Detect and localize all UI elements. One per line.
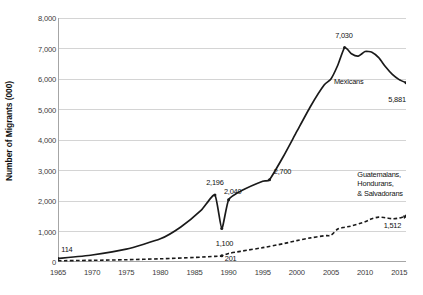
data-label: 114: [61, 244, 72, 253]
y-tick-label: 2,000: [16, 197, 56, 206]
y-tick-label: 0: [16, 258, 56, 267]
data-label: 2,700: [274, 167, 292, 176]
y-tick-label: 8,000: [16, 14, 56, 23]
data-point-marker: [227, 198, 230, 201]
data-label: 201: [225, 253, 237, 262]
y-tick-label: 3,000: [16, 166, 56, 175]
y-axis-tick-labels: 8,0007,0006,0005,0004,0003,0002,0001,000…: [12, 0, 56, 295]
x-axis-tick-labels: 1965197019751980198519901995200020052010…: [0, 268, 423, 284]
y-tick-label: 1,000: [16, 227, 56, 236]
data-point-marker: [268, 178, 271, 181]
data-label: 5,881: [388, 94, 406, 103]
data-point-marker: [58, 257, 60, 260]
data-label: 2,196: [206, 178, 224, 187]
series-annotation-label: Guatemalans,Hondurans,& Salvadorans: [357, 170, 402, 199]
x-tick-label: 2015: [376, 268, 422, 277]
series-annotation-label: Mexicans: [334, 77, 364, 87]
gridlines: [58, 18, 406, 232]
y-tick-label: 4,000: [16, 136, 56, 145]
data-point-marker: [343, 46, 346, 49]
y-tick-label: 6,000: [16, 75, 56, 84]
plot-svg: [58, 18, 406, 262]
data-label: 1,100: [216, 238, 234, 247]
plot-area: 1142,1961,1002,0402,7007,0305,8812011,51…: [58, 18, 406, 262]
data-label: 1,512: [384, 221, 402, 230]
data-point-marker: [213, 194, 216, 197]
migration-line-chart: Number of Migrants (000) 8,0007,0006,000…: [0, 0, 423, 295]
y-tick-label: 5,000: [16, 105, 56, 114]
data-label: 2,040: [224, 186, 242, 195]
data-point-marker: [220, 254, 223, 257]
y-tick-label: 7,000: [16, 44, 56, 53]
data-point-marker: [220, 227, 223, 230]
data-label: 7,030: [335, 30, 353, 39]
